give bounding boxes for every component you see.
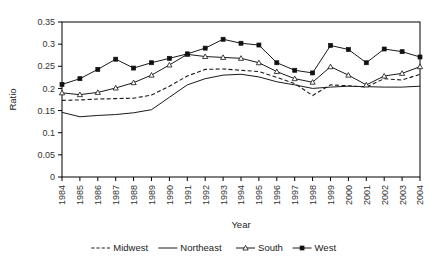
- data-point-marker: [400, 50, 404, 54]
- data-point-marker: [221, 37, 225, 41]
- x-tick-label: 1985: [75, 185, 85, 205]
- data-point-marker: [150, 61, 154, 65]
- data-point-marker: [167, 62, 172, 67]
- x-tick-label: 1990: [165, 185, 175, 205]
- legend-label: West: [315, 242, 337, 253]
- legend-item-northeast[interactable]: Northeast: [158, 242, 222, 253]
- data-point-marker: [149, 73, 154, 78]
- x-tick-label: 1986: [93, 185, 103, 205]
- y-tick-label: 0.25: [37, 61, 55, 71]
- y-tick-label: 0.15: [37, 106, 55, 116]
- x-tick-label: 1998: [308, 185, 318, 205]
- x-tick-label: 1999: [326, 185, 336, 205]
- data-point-marker: [418, 55, 422, 59]
- data-point-marker: [274, 69, 279, 74]
- chart-legend: MidwestNortheastSouthWest: [91, 242, 336, 253]
- y-axis-ticks: 00.050.10.150.20.250.30.35: [37, 17, 62, 182]
- x-tick-label: 2000: [344, 185, 354, 205]
- legend-label: Midwest: [113, 242, 148, 253]
- data-point-marker: [329, 43, 333, 47]
- x-tick-label: 1992: [201, 185, 211, 205]
- x-tick-label: 1988: [129, 185, 139, 205]
- data-point-marker: [132, 66, 136, 70]
- data-point-marker: [96, 67, 100, 71]
- legend-label: Northeast: [180, 242, 222, 253]
- data-point-marker: [239, 41, 243, 45]
- data-point-marker: [78, 77, 82, 81]
- data-point-marker: [185, 52, 189, 56]
- x-tick-label: 1993: [219, 185, 229, 205]
- y-tick-label: 0.3: [42, 39, 55, 49]
- x-tick-label: 2002: [380, 185, 390, 205]
- x-tick-label: 1991: [183, 185, 193, 205]
- data-point-marker: [203, 46, 207, 50]
- data-point-marker: [328, 64, 333, 69]
- data-point-marker: [293, 68, 297, 72]
- x-tick-label: 2001: [362, 185, 372, 205]
- x-axis-ticks: 1984198519861987198819891990199119921993…: [57, 177, 425, 205]
- data-point-marker: [382, 47, 386, 51]
- y-tick-label: 0.35: [37, 17, 55, 27]
- y-tick-label: 0.05: [37, 150, 55, 160]
- x-axis-title: Year: [231, 219, 250, 230]
- x-tick-label: 1989: [147, 185, 157, 205]
- y-axis-title: Ratio: [7, 88, 18, 110]
- y-tick-label: 0.2: [42, 84, 55, 94]
- data-point-marker: [417, 64, 422, 69]
- x-tick-label: 1994: [236, 185, 246, 205]
- data-point-marker: [167, 56, 171, 60]
- x-tick-label: 1996: [272, 185, 282, 205]
- y-tick-label: 0: [50, 172, 55, 182]
- chart-canvas: 00.050.10.150.20.250.30.35 1984198519861…: [0, 0, 435, 265]
- data-point-marker: [275, 61, 279, 65]
- legend-item-south[interactable]: South: [236, 242, 283, 253]
- x-tick-label: 1995: [254, 185, 264, 205]
- data-point-marker: [346, 47, 350, 51]
- series-northeast: [62, 74, 420, 117]
- data-point-marker: [311, 71, 315, 75]
- data-point-marker: [346, 73, 351, 78]
- y-tick-label: 0.1: [42, 128, 55, 138]
- data-point-marker: [364, 61, 368, 65]
- x-tick-label: 1987: [111, 185, 121, 205]
- data-point-marker: [60, 82, 64, 86]
- legend-label: South: [258, 242, 283, 253]
- series-layer: [59, 37, 422, 116]
- data-point-marker: [114, 57, 118, 61]
- x-tick-label: 2003: [398, 185, 408, 205]
- data-point-marker: [364, 82, 369, 87]
- x-tick-label: 2004: [415, 185, 425, 205]
- legend-item-midwest[interactable]: Midwest: [91, 242, 148, 253]
- data-point-marker: [257, 43, 261, 47]
- line-chart: 00.050.10.150.20.250.30.35 1984198519861…: [0, 0, 435, 265]
- legend-item-west[interactable]: West: [293, 242, 337, 253]
- series-west: [60, 37, 422, 86]
- x-tick-label: 1997: [290, 185, 300, 205]
- x-tick-label: 1984: [57, 185, 67, 205]
